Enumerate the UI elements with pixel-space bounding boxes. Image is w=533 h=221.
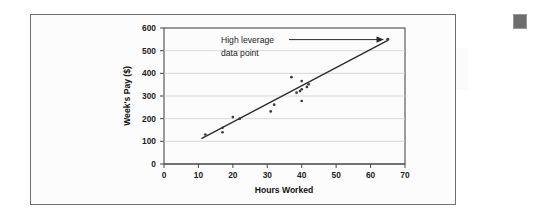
annotation-arrow-head bbox=[377, 36, 385, 42]
data-point bbox=[238, 117, 241, 120]
data-point bbox=[300, 88, 303, 91]
x-tick-label: 70 bbox=[400, 170, 410, 180]
y-tick-label: 300 bbox=[142, 91, 156, 101]
y-tick-label: 600 bbox=[142, 23, 156, 33]
y-tick-label: 200 bbox=[142, 114, 156, 124]
x-tick-label: 40 bbox=[297, 170, 307, 180]
data-point bbox=[221, 126, 224, 129]
data-point bbox=[295, 91, 298, 94]
x-tick-label: 0 bbox=[162, 170, 167, 180]
data-point bbox=[232, 116, 235, 119]
x-axis-ticks bbox=[164, 164, 405, 168]
data-point bbox=[204, 133, 207, 136]
y-tick-label: 500 bbox=[142, 46, 156, 56]
page-root: 0 100 200 300 400 500 600 bbox=[0, 0, 533, 221]
data-point bbox=[269, 110, 272, 113]
x-tick-label: 30 bbox=[263, 170, 273, 180]
annotation-line-1: High leverage bbox=[221, 35, 274, 45]
data-point bbox=[300, 80, 303, 83]
data-point bbox=[307, 83, 310, 86]
annotation-line-2: data point bbox=[221, 48, 259, 58]
figure-card: 0 100 200 300 400 500 600 bbox=[30, 14, 456, 205]
data-point bbox=[273, 103, 276, 106]
y-axis-ticks bbox=[160, 28, 164, 164]
high-leverage-data-point bbox=[386, 38, 389, 41]
y-axis-title: Week's Pay ($) bbox=[122, 66, 132, 126]
x-tick-label: 20 bbox=[228, 170, 238, 180]
data-point bbox=[306, 86, 309, 89]
grid-lines bbox=[164, 51, 405, 142]
y-tick-label: 400 bbox=[142, 68, 156, 78]
x-tick-label: 60 bbox=[366, 170, 376, 180]
x-tick-labels: 0 10 20 30 40 50 60 70 bbox=[162, 170, 410, 180]
scatter-chart: 0 100 200 300 400 500 600 bbox=[31, 15, 457, 206]
x-axis-title: Hours Worked bbox=[255, 185, 314, 195]
x-tick-label: 10 bbox=[194, 170, 204, 180]
data-point bbox=[290, 76, 293, 79]
data-point bbox=[300, 100, 303, 103]
page-corner-square bbox=[513, 14, 527, 29]
y-tick-label: 0 bbox=[151, 159, 156, 169]
x-tick-label: 50 bbox=[331, 170, 341, 180]
y-tick-label: 100 bbox=[142, 136, 156, 146]
y-tick-labels: 0 100 200 300 400 500 600 bbox=[142, 23, 156, 169]
chart-svg: 0 100 200 300 400 500 600 bbox=[31, 15, 457, 206]
data-point bbox=[221, 131, 224, 134]
